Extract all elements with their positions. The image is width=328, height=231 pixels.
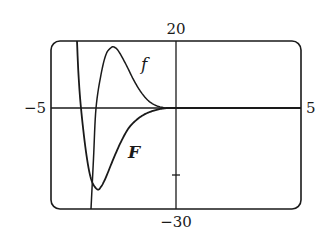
curve-f-label: f: [139, 54, 150, 74]
curve-f: [91, 47, 301, 209]
x-min-label: −5: [24, 99, 46, 117]
curve-F: [77, 41, 301, 190]
curve-F-label: F: [127, 142, 142, 162]
y-min-label: −30: [160, 213, 192, 231]
chart: 20 −30 −5 5 f F: [0, 0, 328, 231]
x-max-label: 5: [306, 99, 316, 117]
y-max-label: 20: [166, 20, 185, 38]
